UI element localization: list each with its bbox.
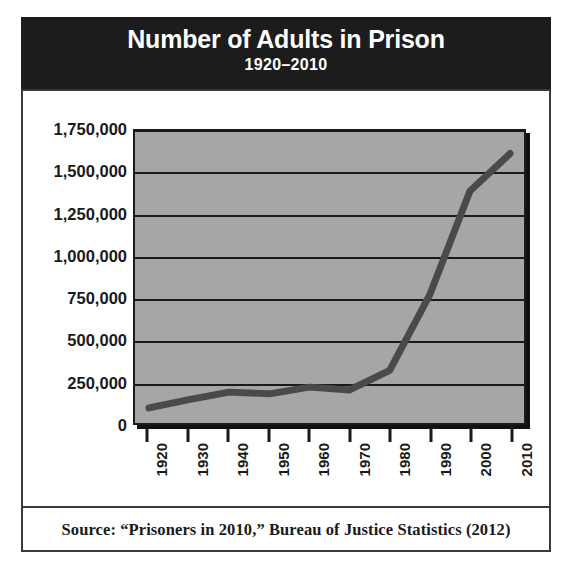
y-axis-tick-label: 500,000 (23, 331, 127, 350)
x-axis-tick-label: 2010 (518, 443, 535, 476)
plot-area (133, 129, 526, 425)
figure-container: Number of Adults in Prison 1920–2010 1,7… (21, 17, 551, 552)
x-axis-tick (470, 429, 473, 442)
chart-title-band: Number of Adults in Prison 1920–2010 (21, 17, 551, 89)
source-note: Source: “Prisoners in 2010,” Bureau of J… (23, 508, 549, 552)
y-axis-labels: 1,750,0001,500,0001,250,0001,000,000750,… (23, 129, 127, 425)
y-axis-tick-label: 1,750,000 (23, 120, 127, 139)
x-axis-tick (146, 429, 149, 442)
x-axis-tick-label: 1980 (396, 443, 413, 476)
x-axis-tick-label: 1970 (356, 443, 373, 476)
chart-area: 1,750,0001,500,0001,250,0001,000,000750,… (23, 91, 549, 506)
x-axis-tick-label: 1920 (153, 443, 170, 476)
page-title: Number of Adults in Prison (21, 24, 551, 54)
series-line-chart (135, 131, 524, 423)
x-axis-tick (511, 429, 514, 442)
x-axis-tick (429, 429, 432, 442)
x-axis-tick-label: 1940 (234, 443, 251, 476)
x-axis-tick-label: 1960 (315, 443, 332, 476)
y-axis-tick-label: 0 (23, 416, 127, 435)
x-axis-tick (186, 429, 189, 442)
x-axis-tick-label: 1950 (275, 443, 292, 476)
x-axis-tick (227, 429, 230, 442)
x-axis-tick-label: 1990 (437, 443, 454, 476)
y-axis-tick-label: 1,500,000 (23, 162, 127, 181)
x-axis-tick-label: 1930 (194, 443, 211, 476)
chart-subtitle: 1920–2010 (21, 54, 551, 76)
y-axis-tick-label: 250,000 (23, 373, 127, 392)
y-axis-tick-label: 1,250,000 (23, 204, 127, 223)
chart-body-box: 1,750,0001,500,0001,250,0001,000,000750,… (21, 89, 551, 552)
x-axis-tick (267, 429, 270, 442)
y-axis-tick-label: 750,000 (23, 289, 127, 308)
x-axis-tick (348, 429, 351, 442)
x-axis-labels: 1920193019401950196019701980199020002010 (133, 443, 526, 503)
y-axis-tick-label: 1,000,000 (23, 246, 127, 265)
x-axis-ticks (133, 429, 526, 443)
x-axis-tick (308, 429, 311, 442)
x-axis-tick-label: 2000 (477, 443, 494, 476)
x-axis-tick (389, 429, 392, 442)
series-line (149, 154, 510, 408)
